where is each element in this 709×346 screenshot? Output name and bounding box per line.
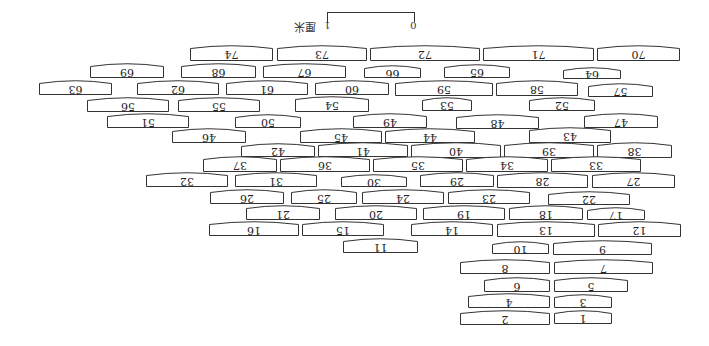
tile-37: 37 bbox=[203, 156, 277, 172]
scale-bar: 1 0 厘米 bbox=[286, 9, 416, 35]
tile-42: 42 bbox=[241, 143, 315, 157]
tile-label: 21 bbox=[246, 208, 320, 220]
tile-9: 9 bbox=[553, 240, 652, 255]
scale-bar-unit-label: 厘米 bbox=[294, 20, 316, 36]
tile-45: 45 bbox=[300, 128, 382, 143]
tile-label: 67 bbox=[263, 66, 346, 78]
tile-label: 23 bbox=[448, 192, 530, 204]
tile-12: 12 bbox=[598, 221, 681, 237]
tile-label: 51 bbox=[107, 116, 189, 128]
tile-36: 36 bbox=[280, 156, 370, 172]
tile-label: 5 bbox=[554, 280, 628, 292]
scale-bar-line bbox=[327, 12, 415, 22]
tile-label: 31 bbox=[235, 175, 317, 187]
tile-label: 61 bbox=[226, 83, 308, 95]
tile-44: 44 bbox=[385, 128, 475, 143]
scale-bar-start-label: 0 bbox=[410, 20, 416, 31]
tile-label: 72 bbox=[370, 48, 480, 61]
tile-4: 4 bbox=[468, 293, 550, 308]
tile-63: 63 bbox=[39, 80, 112, 95]
tile-label: 71 bbox=[483, 48, 594, 61]
tile-label: 4 bbox=[468, 296, 550, 308]
tile-label: 17 bbox=[587, 210, 645, 220]
scale-bar-end-label: 1 bbox=[324, 20, 330, 31]
tile-18: 18 bbox=[509, 205, 583, 220]
tile-22: 22 bbox=[548, 191, 630, 205]
tile-70: 70 bbox=[597, 45, 680, 61]
tile-61: 61 bbox=[226, 80, 308, 95]
tile-47: 47 bbox=[584, 113, 658, 128]
tile-65: 65 bbox=[444, 64, 510, 78]
tile-69: 69 bbox=[90, 63, 164, 78]
tile-21: 21 bbox=[246, 205, 320, 220]
tile-label: 1 bbox=[554, 313, 612, 324]
tile-43: 43 bbox=[529, 127, 611, 143]
tile-label: 52 bbox=[529, 100, 595, 111]
tile-51: 51 bbox=[107, 113, 189, 128]
tile-53: 53 bbox=[422, 97, 472, 111]
tile-label: 35 bbox=[373, 159, 463, 172]
tile-50: 50 bbox=[235, 114, 301, 128]
tile-60: 60 bbox=[315, 80, 389, 95]
tile-20: 20 bbox=[335, 205, 417, 220]
tile-label: 36 bbox=[280, 159, 370, 172]
tile-71: 71 bbox=[483, 45, 594, 61]
tile-64: 64 bbox=[563, 67, 621, 79]
tile-label: 28 bbox=[497, 175, 588, 188]
tile-label: 33 bbox=[551, 159, 641, 172]
tile-25: 25 bbox=[291, 189, 357, 204]
tile-label: 18 bbox=[509, 208, 583, 220]
tile-label: 60 bbox=[315, 83, 389, 95]
tile-label: 69 bbox=[90, 66, 164, 78]
tile-label: 7 bbox=[554, 262, 653, 274]
tile-34: 34 bbox=[466, 156, 548, 172]
tile-label: 6 bbox=[484, 280, 550, 292]
tile-label: 29 bbox=[420, 175, 494, 187]
tile-33: 33 bbox=[551, 156, 641, 172]
tile-label: 3 bbox=[554, 297, 612, 308]
tile-35: 35 bbox=[373, 156, 463, 172]
tile-2: 2 bbox=[460, 310, 550, 325]
tile-6: 6 bbox=[484, 277, 550, 292]
tile-label: 24 bbox=[362, 192, 444, 204]
tile-label: 30 bbox=[341, 177, 407, 187]
tile-label: 74 bbox=[190, 48, 273, 61]
tile-66: 66 bbox=[364, 65, 421, 78]
tile-28: 28 bbox=[497, 172, 588, 188]
tile-41: 41 bbox=[318, 142, 408, 157]
tile-label: 19 bbox=[423, 208, 505, 220]
tile-label: 63 bbox=[39, 83, 112, 95]
tile-label: 49 bbox=[353, 116, 427, 128]
tile-label: 55 bbox=[178, 100, 260, 112]
tile-74: 74 bbox=[190, 45, 273, 61]
tile-label: 12 bbox=[598, 224, 681, 237]
tile-52: 52 bbox=[529, 97, 595, 111]
tile-label: 73 bbox=[277, 48, 367, 61]
tile-label: 26 bbox=[210, 192, 284, 204]
tile-73: 73 bbox=[277, 45, 367, 61]
tile-23: 23 bbox=[448, 189, 530, 204]
tile-17: 17 bbox=[587, 207, 645, 220]
tile-59: 59 bbox=[395, 80, 493, 96]
tile-label: 56 bbox=[87, 100, 169, 112]
tile-54: 54 bbox=[295, 96, 369, 112]
tile-label: 9 bbox=[553, 243, 652, 255]
tile-label: 11 bbox=[343, 241, 418, 253]
tile-label: 22 bbox=[548, 194, 630, 205]
tile-label: 34 bbox=[466, 159, 548, 172]
tile-label: 53 bbox=[422, 100, 472, 111]
tile-layout-diagram: 1 0 厘米 747372717069686766656463626160595… bbox=[0, 0, 709, 346]
tile-label: 32 bbox=[146, 175, 228, 187]
tile-label: 25 bbox=[291, 192, 357, 204]
tile-62: 62 bbox=[137, 80, 219, 95]
tile-5: 5 bbox=[554, 277, 628, 292]
tile-14: 14 bbox=[411, 221, 493, 236]
tile-label: 50 bbox=[235, 117, 301, 128]
tile-27: 27 bbox=[592, 172, 675, 188]
tile-15: 15 bbox=[302, 221, 384, 236]
tile-label: 2 bbox=[460, 313, 550, 325]
tile-label: 8 bbox=[460, 262, 550, 274]
tile-32: 32 bbox=[146, 172, 228, 187]
tile-13: 13 bbox=[497, 221, 595, 237]
tile-10: 10 bbox=[492, 241, 549, 254]
